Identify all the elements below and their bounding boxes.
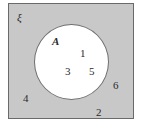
element-1: 1: [80, 48, 86, 59]
element-6: 6: [113, 80, 119, 91]
set-a-label: A: [52, 36, 59, 47]
element-2: 2: [96, 107, 102, 118]
set-a-circle: [34, 24, 109, 100]
element-3: 3: [65, 66, 71, 77]
element-5: 5: [89, 66, 95, 77]
element-4: 4: [23, 93, 29, 104]
universal-set-symbol: ξ: [17, 12, 22, 23]
